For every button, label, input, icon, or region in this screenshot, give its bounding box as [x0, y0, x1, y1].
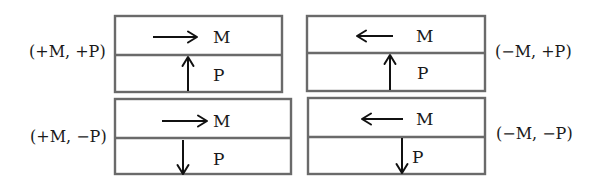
magnetization-layer-label: M [213, 111, 230, 131]
layer-stack-frame [115, 99, 291, 174]
state-pos-m-neg-p: (+M, −P) M P [30, 99, 291, 174]
state-label: (−M, +P) [495, 42, 572, 61]
magnetization-polarization-diagram: (+M, +P) M P M P (−M, +P) [0, 0, 604, 185]
state-pos-m-pos-p: (+M, +P) M P [29, 16, 282, 92]
polarization-layer-label: P [417, 63, 428, 83]
state-neg-m-neg-p: M P (−M, −P) [308, 98, 573, 174]
state-label: (+M, +P) [29, 42, 106, 61]
state-label: (+M, −P) [30, 127, 107, 146]
magnetization-layer-label: M [416, 26, 433, 46]
state-label: (−M, −P) [496, 124, 573, 143]
magnetization-layer-label: M [416, 109, 433, 129]
state-neg-m-pos-p: M P (−M, +P) [307, 16, 572, 91]
polarization-layer-label: P [412, 147, 423, 167]
polarization-layer-label: P [213, 149, 224, 169]
magnetization-layer-label: M [213, 27, 230, 47]
polarization-layer-label: P [213, 65, 224, 85]
